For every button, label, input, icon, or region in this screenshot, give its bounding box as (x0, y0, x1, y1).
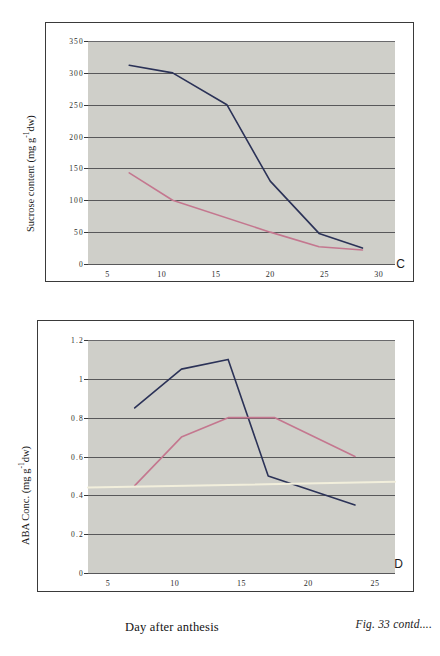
x-tick-label: 10 (170, 579, 179, 588)
x-tick-label: 15 (237, 579, 246, 588)
y-axis-title-c-superscript: -1 (22, 132, 31, 138)
y-tick-label: 300 (69, 68, 84, 77)
x-tick-label: 20 (266, 270, 275, 279)
y-tick-label: 100 (69, 196, 84, 205)
y-axis-title-c: Sucrose content (mg g-1dw) (22, 115, 36, 232)
x-tick-label: 30 (374, 270, 383, 279)
figure-caption: Fig. 33 contd.... (355, 618, 432, 630)
figure-container: 350300250200150100500 51015202530 C Sucr… (0, 0, 440, 656)
y-tick-mark (84, 105, 88, 106)
y-tick-mark (84, 457, 88, 458)
y-tick-label: 250 (69, 100, 84, 109)
gridline (88, 573, 395, 574)
panel-label-c: C (396, 257, 405, 271)
x-tick-label: 5 (106, 579, 110, 588)
y-axis-title-d: ABA Conc. (mg g-1dw) (17, 446, 31, 545)
y-tick-label: 0.4 (71, 491, 84, 500)
y-tick-mark (84, 73, 88, 74)
y-tick-mark (84, 534, 88, 535)
series-layer-d (88, 340, 395, 573)
gridline (88, 264, 395, 265)
y-tick-label: 0.2 (71, 530, 84, 539)
y-tick-mark (84, 168, 88, 169)
y-axis-title-c-prefix: Sucrose content (mg g (25, 138, 36, 232)
y-tick-mark (84, 340, 88, 341)
x-tick-label: 20 (304, 579, 313, 588)
x-tick-label: 10 (157, 270, 166, 279)
panel-label-d: D (394, 557, 403, 571)
y-tick-label: 0.8 (71, 413, 84, 422)
y-tick-label: 150 (69, 164, 84, 173)
data-series-series-pink (135, 418, 355, 486)
panel-d: 1.210.80.60.40.20 510152025 D (37, 320, 414, 592)
series-layer-c (88, 41, 395, 264)
panel-c: 350300250200150100500 51015202530 C (45, 22, 414, 282)
x-axis-title-text: Day after anthesis (125, 620, 219, 634)
y-axis-title-d-suffix: dw) (20, 446, 31, 462)
x-tick-label: 15 (212, 270, 221, 279)
y-tick-mark (84, 418, 88, 419)
y-axis-title-d-prefix: ABA Conc. (mg g (20, 469, 31, 545)
y-tick-label: 350 (69, 37, 84, 46)
x-tick-label: 5 (105, 270, 109, 279)
y-tick-mark (84, 41, 88, 42)
x-tick-label: 25 (371, 579, 380, 588)
y-tick-label: 200 (69, 132, 84, 141)
plot-area-c (88, 41, 395, 264)
y-tick-mark (84, 379, 88, 380)
y-tick-mark (84, 200, 88, 201)
x-tick-label: 25 (320, 270, 329, 279)
y-tick-label: 0.6 (71, 452, 84, 461)
y-tick-mark (84, 264, 88, 265)
y-axis-title-d-superscript: -1 (17, 462, 26, 468)
y-tick-mark (84, 495, 88, 496)
data-series-series-blue (129, 65, 362, 248)
data-series-series-pink (129, 173, 362, 250)
y-tick-mark (84, 573, 88, 574)
y-tick-label: 1.2 (71, 336, 84, 345)
data-series-series-cream-baseline (88, 482, 395, 488)
y-axis-title-c-suffix: dw) (25, 115, 36, 131)
y-tick-mark (84, 232, 88, 233)
plot-area-d (88, 340, 395, 573)
y-tick-label: 50 (74, 228, 84, 237)
y-tick-mark (84, 137, 88, 138)
